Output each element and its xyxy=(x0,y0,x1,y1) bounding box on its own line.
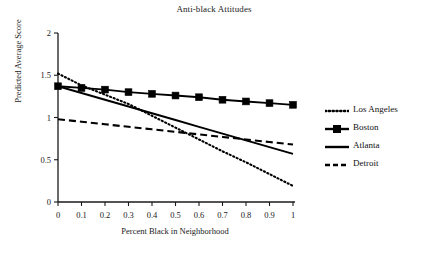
x-tick-label: 0.7 xyxy=(217,210,228,220)
legend-item-label: Los Angeles xyxy=(353,105,398,114)
x-tick-label: 0.1 xyxy=(76,210,87,220)
y-tick-label: 2 xyxy=(47,28,51,38)
y-tick-label: 1 xyxy=(47,113,51,123)
legend-item-label: Atlanta xyxy=(353,141,380,150)
legend-item-los-angeles[interactable]: Los Angeles xyxy=(325,101,425,117)
x-tick-label: 0.5 xyxy=(170,210,181,220)
x-tick-label: 0.2 xyxy=(100,210,111,220)
chart-figure: Anti-black Attitudes Predicted Average S… xyxy=(0,0,428,255)
chart-legend: Los AngelesBostonAtlantaDetroit xyxy=(325,101,425,173)
x-tick-label: 0.6 xyxy=(194,210,205,220)
legend-item-boston[interactable]: Boston xyxy=(325,119,425,135)
x-tick-label: 0.3 xyxy=(123,210,134,220)
legend-swatch-icon xyxy=(325,157,349,169)
series-marker-boston xyxy=(290,101,297,108)
y-tick-label: 0 xyxy=(47,197,51,207)
series-marker-boston xyxy=(125,89,132,96)
series-marker-boston xyxy=(196,94,203,101)
series-marker-boston xyxy=(172,92,179,99)
series-line-los-angeles xyxy=(58,74,293,186)
legend-swatch-icon xyxy=(325,103,349,115)
legend-marker xyxy=(333,125,341,133)
legend-swatch-icon xyxy=(325,121,349,133)
x-tick-label: 0.4 xyxy=(147,210,158,220)
data-series xyxy=(55,74,297,186)
legend-item-label: Detroit xyxy=(353,159,379,168)
x-tick-label: 0.8 xyxy=(241,210,252,220)
x-tick-label: 0 xyxy=(56,210,60,220)
legend-item-detroit[interactable]: Detroit xyxy=(325,155,425,171)
series-marker-boston xyxy=(266,100,273,107)
series-marker-boston xyxy=(149,90,156,97)
y-tick-label: 1.5 xyxy=(40,70,51,80)
y-tick-label: 0.5 xyxy=(40,155,51,165)
x-tick-label: 1 xyxy=(291,210,295,220)
legend-item-label: Boston xyxy=(353,123,379,132)
legend-swatch-icon xyxy=(325,139,349,151)
series-marker-boston xyxy=(219,96,226,103)
series-marker-boston xyxy=(102,86,109,93)
series-line-detroit xyxy=(58,119,293,144)
legend-item-atlanta[interactable]: Atlanta xyxy=(325,137,425,153)
series-marker-boston xyxy=(243,98,250,105)
x-axis-label: Percent Black in Neighborhood xyxy=(40,226,310,236)
series-marker-boston xyxy=(78,85,85,92)
x-tick-label: 0.9 xyxy=(264,210,275,220)
